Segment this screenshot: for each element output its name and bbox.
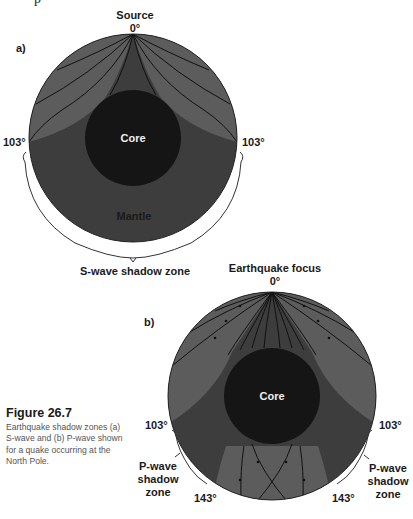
panel-label-b: b) [144, 316, 155, 328]
svg-text:zone: zone [375, 488, 400, 500]
earthquake-focus-label: Earthquake focus [229, 262, 321, 274]
focus-angle: 0° [270, 275, 281, 287]
svg-text:shadow: shadow [368, 475, 409, 487]
core-label-a: Core [120, 132, 145, 144]
angle-right-103-a: 103° [242, 136, 265, 148]
source-angle: 0° [130, 22, 141, 34]
diagram-b: b) Earthquake focus 0° 103° 103° 143° 14… [138, 262, 409, 505]
s-wave-shadow-zone-label: S-wave shadow zone [80, 265, 190, 277]
panel-label-a: a) [16, 42, 26, 54]
p-wave-shadow-label-right: P-wave shadow zone [368, 462, 409, 500]
angle-left-143-b: 143° [194, 492, 217, 504]
p-wave-shadow-label-left: P-wave shadow zone [138, 460, 179, 498]
svg-text:P-wave: P-wave [139, 460, 177, 472]
angle-right-103-b: 103° [379, 419, 402, 431]
figure-caption: Figure 26.7 Earthquake shadow zones (a) … [6, 406, 124, 467]
source-label: Source [116, 9, 153, 21]
svg-text:zone: zone [145, 486, 170, 498]
svg-text:shadow: shadow [138, 473, 179, 485]
angle-left-103-b: 103° [145, 419, 168, 431]
figure-title: Figure 26.7 [6, 406, 124, 420]
angle-left-103-a: 103° [3, 136, 26, 148]
core-label-b: Core [259, 390, 284, 402]
svg-text:P-wave: P-wave [369, 462, 407, 474]
mantle-label: Mantle [117, 210, 152, 222]
p-wave-refracted-region [212, 446, 332, 505]
angle-right-143-b: 143° [332, 492, 355, 504]
figure-description: Earthquake shadow zones (a) S-wave and (… [6, 422, 124, 467]
diagram-a: a) Source 0° 103° 103° Core Mantle S-wav… [3, 9, 265, 277]
